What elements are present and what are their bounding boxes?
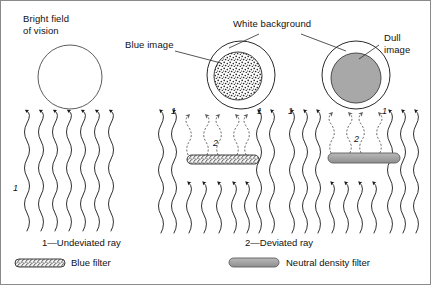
figure-canvas: Bright field of vision Blue image White … [0,0,431,285]
bright-field-label: Bright field of vision [23,13,69,36]
dull-image-circle [322,41,390,109]
neutral-density-filter [328,153,400,163]
ray-number-right-2: 2 [354,134,359,144]
leader-white-bg-right [301,34,346,51]
dull-image-label: Dull image [384,32,410,55]
left-panel-rays [25,111,114,231]
caption-undeviated-ray: 1—Undeviated ray [42,237,121,248]
blue-image-circle [207,41,275,109]
blue-filter-swatch [15,259,65,267]
legend-label-neutral-density-filter: Neutral density filter [286,257,370,268]
legend-swatches [15,258,279,267]
right-panel-undeviated-rays [290,111,419,233]
right-panel-lower-rays [330,183,377,233]
neutral-density-filter-swatch [229,258,279,267]
ray-number-middle-2: 2 [213,138,218,148]
middle-panel-deviated-rays [186,116,249,158]
ray-number-right-right-1: 1 [382,106,387,116]
legend-label-blue-filter: Blue filter [71,257,111,268]
blue-filter [187,155,259,164]
ray-number-right-left-1: 1 [288,106,293,116]
middle-panel-lower-rays [187,183,250,233]
ray-number-left-1: 1 [13,183,18,193]
middle-panel-undeviated-rays [159,111,275,233]
ray-number-middle-left-1: 1 [171,106,176,116]
white-background-label: White background [233,18,311,30]
bright-field-circle [38,45,102,109]
caption-deviated-ray: 2—Deviated ray [245,237,313,248]
blue-image-label: Blue image [125,39,174,51]
ray-number-middle-right-1: 1 [257,106,262,116]
